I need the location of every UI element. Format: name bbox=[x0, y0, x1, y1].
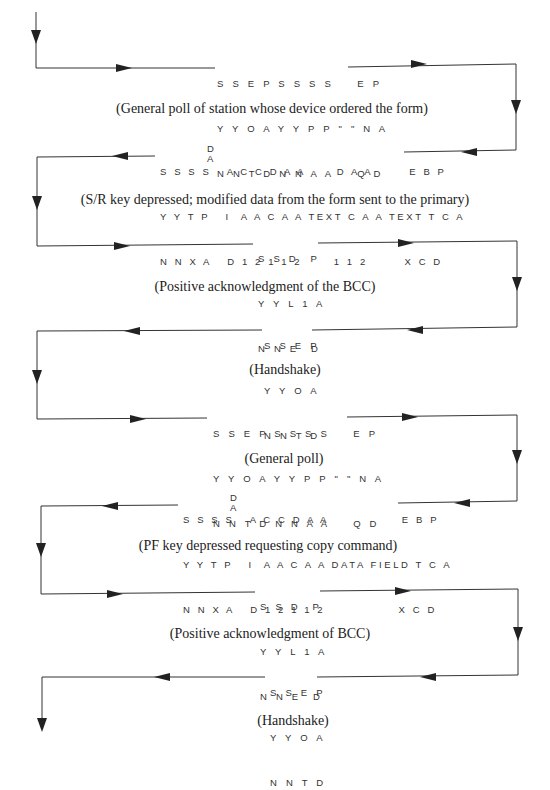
frame-row: S S S S A C C D A A D A A E B P bbox=[160, 164, 465, 179]
arrow-left-icon bbox=[407, 326, 423, 334]
arrow-right-icon bbox=[116, 64, 132, 72]
arrow-down-icon bbox=[31, 30, 41, 44]
arrow-left-icon bbox=[454, 499, 470, 507]
arrow-down-icon bbox=[32, 196, 42, 210]
da-label-a: A bbox=[207, 154, 214, 164]
arrow-left-icon bbox=[154, 673, 170, 681]
arrow-left-icon bbox=[124, 327, 140, 335]
arrow-right-icon bbox=[107, 590, 123, 598]
caption-sr-key-data: (S/R key depressed; modified data from t… bbox=[81, 192, 469, 208]
arrow-down-icon bbox=[511, 100, 521, 114]
caption-handshake-1: (Handshake) bbox=[249, 362, 321, 378]
frame-row: N N T D bbox=[270, 775, 326, 790]
caption-positive-ack-2: (Positive acknowledgment of BCC) bbox=[170, 626, 370, 642]
frame-row: S S D P bbox=[260, 599, 328, 614]
arrow-right-icon bbox=[114, 242, 130, 250]
arrow-left-icon bbox=[102, 502, 118, 510]
arrow-right-icon bbox=[411, 60, 427, 68]
da-label: D A bbox=[230, 493, 237, 513]
arrow-right-icon bbox=[130, 415, 146, 423]
arrow-down-icon bbox=[37, 718, 47, 732]
caption-general-poll-2: (General poll) bbox=[245, 451, 324, 467]
frame-row: S S S S A C C D A A E B P bbox=[183, 512, 452, 527]
arrow-right-icon bbox=[402, 413, 418, 421]
frame-row: S S E P S S S S E P bbox=[217, 76, 388, 91]
frame-row: S S E P S S S S E P bbox=[213, 426, 384, 441]
da-label-a: A bbox=[230, 503, 237, 513]
frame-row: S S D P bbox=[258, 251, 326, 266]
caption-pf-key-copy: (PF key depressed requesting copy comman… bbox=[139, 538, 398, 554]
arrow-down-icon bbox=[32, 370, 42, 384]
caption-handshake-2: (Handshake) bbox=[257, 713, 329, 729]
arrow-down-icon bbox=[36, 543, 46, 557]
caption-positive-ack-1: (Positive acknowledgment of the BCC) bbox=[155, 279, 376, 295]
frame-row: S S E P bbox=[270, 685, 326, 700]
arrow-down-icon bbox=[512, 277, 522, 291]
arrow-left-icon bbox=[112, 152, 128, 160]
arrow-down-icon bbox=[513, 627, 523, 641]
arrow-left-icon bbox=[420, 673, 436, 681]
arrow-down-icon bbox=[512, 450, 522, 464]
da-label: D A bbox=[207, 144, 214, 164]
frame-row: S S E P bbox=[264, 338, 320, 353]
caption-general-poll-1: (General poll of station whose device or… bbox=[116, 101, 428, 117]
frame-row: Y Y O A bbox=[270, 730, 326, 745]
